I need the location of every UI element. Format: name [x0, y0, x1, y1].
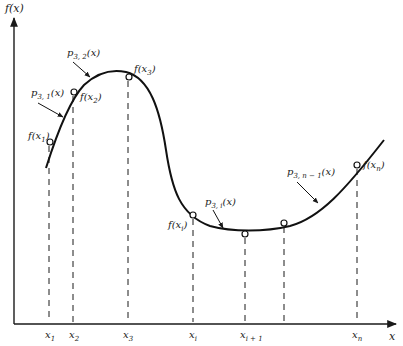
tick-xi1: xi + 1: [240, 329, 263, 343]
x-axis-label: x: [389, 330, 396, 343]
point-xi1: [242, 231, 248, 237]
label-fxi: f(xi): [167, 219, 188, 233]
knot-dashed-lines: [49, 81, 357, 322]
label-p3n1: p3, n − 1(x): [287, 166, 335, 180]
label-fx2: f(x2): [79, 91, 102, 105]
label-p3i: p3, i(x): [205, 196, 236, 210]
point-xi: [190, 212, 196, 218]
arrow-p32: [73, 62, 90, 77]
label-fxn: f(xn): [362, 159, 385, 173]
label-p32: p3, 2(x): [67, 47, 100, 61]
label-fx3: f(x3): [133, 63, 156, 77]
tick-x2: x2: [69, 329, 80, 343]
tick-x3: x3: [123, 329, 134, 343]
point-xunl: [281, 220, 287, 226]
cubic-spline-diagram: f(x) x f(x1) f(x2) f(x3) f(xi) f(xn) p3,…: [0, 0, 403, 346]
tick-xn: xn: [352, 329, 363, 343]
tick-x1: x1: [45, 329, 55, 343]
arrow-p31: [38, 103, 63, 117]
arrow-p3i: [213, 210, 223, 228]
y-axis-label: f(x): [4, 2, 24, 15]
point-xn: [354, 162, 360, 168]
tick-xi: xi: [189, 329, 197, 343]
arrow-p3n1: [297, 182, 318, 203]
label-fx1: f(x1): [27, 130, 50, 144]
label-p31: p3, 1(x): [31, 87, 64, 101]
point-x3: [126, 74, 132, 80]
point-x2: [71, 89, 77, 95]
